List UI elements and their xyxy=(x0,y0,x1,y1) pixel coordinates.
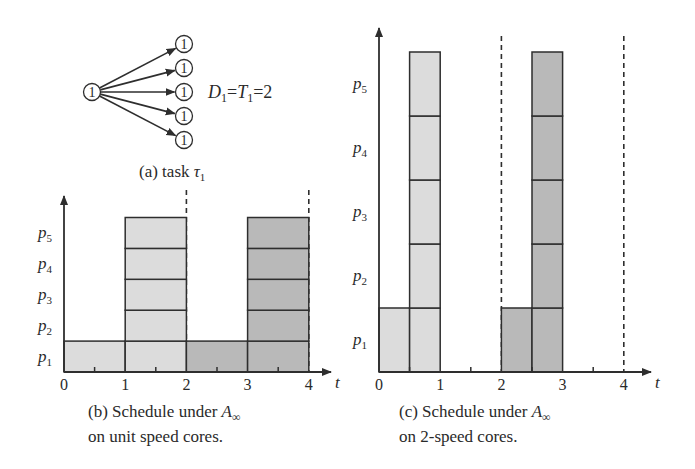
caption-a: (a) task τ1 xyxy=(139,162,205,187)
x-axis-label: t xyxy=(335,373,341,392)
infinity-subscript: ∞ xyxy=(232,410,241,424)
caption-c: (c) Schedule under A∞ on 2-speed cores. xyxy=(399,402,551,446)
schedule-block-p3 xyxy=(248,279,309,310)
schedule-block-p5 xyxy=(125,218,186,249)
schedule-block-p2 xyxy=(410,244,441,308)
schedule-block-p1 xyxy=(501,308,532,372)
x-tick-label: 4 xyxy=(620,376,628,393)
processor-label: p5 xyxy=(37,223,53,244)
dependency-arrow xyxy=(100,48,176,88)
schedule-block-p1 xyxy=(410,308,441,372)
x-tick-label: 2 xyxy=(497,376,505,393)
node-label: 1 xyxy=(89,85,96,100)
processor-label: p4 xyxy=(352,138,368,159)
node-label: 1 xyxy=(181,85,188,100)
schedule-block-p3 xyxy=(532,180,563,244)
schedule-block-p5 xyxy=(248,218,309,249)
dependency-arrow xyxy=(100,94,175,113)
algorithm-symbol: A xyxy=(222,402,232,421)
schedule-block-p4 xyxy=(532,116,563,180)
schedule-block-p3 xyxy=(410,180,441,244)
node-label: 1 xyxy=(181,61,188,76)
processor-label: p5 xyxy=(352,74,368,95)
task-graph: 111111D1=T1=2 xyxy=(84,36,273,149)
chart-b: 01234tp1p2p3p4p5 xyxy=(37,190,341,393)
processor-label: p3 xyxy=(352,202,368,223)
chart-c: 01234tp1p2p3p4p5 xyxy=(352,28,661,393)
figure-canvas: 111111D1=T1=2 01234tp1p2p3p4p5 01234tp1p… xyxy=(0,0,695,469)
x-tick-label: 0 xyxy=(375,376,383,393)
x-tick-label: 3 xyxy=(244,376,252,393)
schedule-block-p5 xyxy=(532,52,563,116)
algorithm-symbol: A xyxy=(532,402,542,421)
schedule-block-p3 xyxy=(125,279,186,310)
caption-c-line2: on 2-speed cores. xyxy=(399,427,551,446)
schedule-block-p4 xyxy=(410,116,441,180)
schedule-block-p4 xyxy=(248,248,309,279)
x-tick-label: 2 xyxy=(182,376,190,393)
dependency-arrow xyxy=(100,70,175,89)
node-label: 1 xyxy=(181,37,188,52)
schedule-block-p2 xyxy=(248,310,309,341)
processor-label: p1 xyxy=(352,330,367,351)
tau-subscript: 1 xyxy=(200,171,206,183)
x-tick-label: 0 xyxy=(60,376,68,393)
x-tick-label: 1 xyxy=(121,376,129,393)
schedule-block-p4 xyxy=(125,248,186,279)
processor-label: p2 xyxy=(352,266,367,287)
processor-label: p1 xyxy=(37,347,52,368)
processor-label: p3 xyxy=(37,285,53,306)
schedule-block-p1 xyxy=(532,308,563,372)
dependency-arrow xyxy=(100,96,176,136)
x-tick-label: 4 xyxy=(305,376,313,393)
schedule-block-p1 xyxy=(379,308,410,372)
schedule-block-p2 xyxy=(532,244,563,308)
deadline-period-equation: D1=T1=2 xyxy=(207,82,272,105)
processor-label: p4 xyxy=(37,254,53,275)
infinity-subscript: ∞ xyxy=(542,410,551,424)
x-axis-label: t xyxy=(655,373,661,392)
caption-c-prefix: (c) Schedule under xyxy=(399,402,532,421)
node-label: 1 xyxy=(181,133,188,148)
caption-c-line1: (c) Schedule under A∞ xyxy=(399,402,551,427)
schedule-block-p2 xyxy=(125,310,186,341)
schedule-block-p5 xyxy=(410,52,441,116)
node-label: 1 xyxy=(181,109,188,124)
x-tick-label: 1 xyxy=(436,376,444,393)
x-tick-label: 3 xyxy=(559,376,567,393)
caption-b-prefix: (b) Schedule under xyxy=(88,402,222,421)
caption-b-line1: (b) Schedule under A∞ xyxy=(88,402,241,427)
caption-b: (b) Schedule under A∞ on unit speed core… xyxy=(88,402,241,446)
caption-b-line2: on unit speed cores. xyxy=(88,427,241,446)
caption-a-text: (a) task xyxy=(139,162,194,181)
processor-label: p2 xyxy=(37,316,52,337)
